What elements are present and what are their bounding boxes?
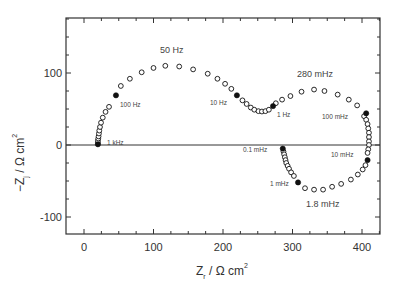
open-data-point — [280, 97, 285, 102]
frequency-annotations: 50 Hz 100 Hz 1 kHz 10 Hz 1 Hz 280 mHz 10… — [107, 45, 353, 209]
open-data-point — [177, 64, 182, 69]
annotation-280mhz: 280 mHz — [297, 69, 334, 79]
x-tick-labels: 0 100 200 300 400 — [81, 241, 371, 253]
open-data-point — [348, 177, 353, 182]
open-data-point — [127, 76, 132, 81]
open-data-point — [355, 172, 360, 177]
open-data-point — [312, 187, 317, 192]
open-data-point — [205, 71, 210, 76]
x-tick-label: 400 — [353, 241, 371, 253]
filled-data-point — [280, 146, 285, 151]
open-data-point — [288, 94, 293, 99]
open-data-point — [240, 98, 245, 103]
filled-data-point — [295, 180, 300, 185]
annotation-0-1mhz: 0.1 mHz — [243, 146, 267, 153]
open-data-points — [96, 63, 372, 192]
open-data-point — [107, 104, 112, 109]
open-data-point — [100, 115, 105, 120]
annotation-10hz: 10 Hz — [210, 99, 227, 106]
open-data-point — [229, 86, 234, 91]
open-data-point — [346, 97, 351, 102]
x-tick-label: 100 — [144, 241, 162, 253]
annotation-50hz: 50 Hz — [160, 45, 184, 55]
annotation-1mhz: 1 mHz — [270, 180, 289, 187]
open-data-point — [312, 87, 317, 92]
open-data-point — [335, 92, 340, 97]
open-data-point — [291, 174, 296, 179]
x-axis-title: Zr / Ω cm2 — [196, 262, 248, 280]
open-data-point — [266, 107, 271, 112]
filled-data-point — [234, 93, 239, 98]
open-data-point — [355, 103, 360, 108]
open-data-point — [299, 89, 304, 94]
open-data-point — [360, 167, 365, 172]
open-data-point — [330, 184, 335, 189]
filled-data-point — [365, 158, 370, 163]
open-data-point — [363, 163, 368, 168]
annotation-1hz: 1 Hz — [277, 111, 290, 118]
open-data-point — [103, 109, 108, 114]
open-data-point — [139, 70, 144, 75]
annotation-10mhz: 10 mHz — [331, 151, 353, 158]
annotation-1khz: 1 kHz — [107, 139, 124, 146]
open-data-point — [191, 67, 196, 72]
y-tick-label: 100 — [44, 67, 62, 79]
x-tick-label: 0 — [81, 241, 87, 253]
open-data-point — [99, 120, 104, 125]
annotation-1-8mhz: 1.8 mHz — [306, 199, 340, 209]
nyquist-chart: 0 100 200 300 400 100 0 -100 Zr / Ω cm2 … — [0, 0, 399, 291]
open-data-point — [303, 186, 308, 191]
y-tick-label: -100 — [40, 211, 62, 223]
filled-data-point — [364, 111, 369, 116]
open-data-point — [163, 63, 168, 68]
filled-data-point — [113, 93, 118, 98]
open-data-point — [339, 181, 344, 186]
open-data-point — [151, 66, 156, 71]
annotation-100mhz: 100 mHz — [322, 113, 348, 120]
open-data-point — [223, 81, 228, 86]
filled-data-point — [95, 142, 100, 147]
open-data-point — [365, 151, 370, 156]
annotation-100hz: 100 Hz — [120, 101, 141, 108]
y-tick-labels: 100 0 -100 — [40, 67, 62, 223]
filled-data-point — [270, 104, 275, 109]
x-tick-label: 300 — [283, 241, 301, 253]
y-axis-title: −Zj / Ω cm2 — [11, 134, 30, 192]
open-data-point — [215, 76, 220, 81]
open-data-point — [118, 84, 123, 89]
y-tick-label: 0 — [56, 139, 62, 151]
open-data-point — [321, 187, 326, 192]
open-data-point — [322, 89, 327, 94]
x-tick-label: 200 — [214, 241, 232, 253]
open-data-point — [244, 102, 249, 107]
